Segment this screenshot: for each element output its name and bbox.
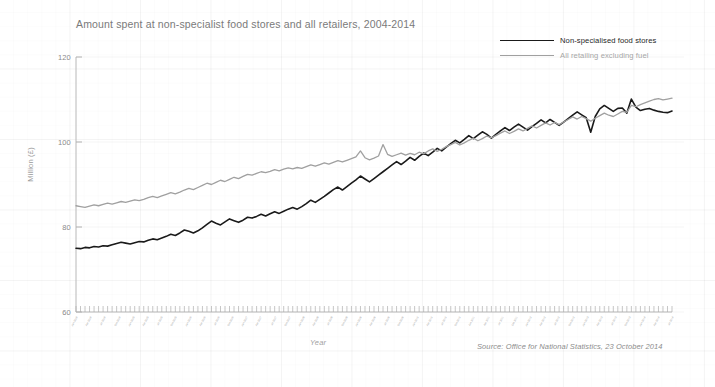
x-tick-label: Jan 2005	[128, 316, 136, 327]
chart-legend: Non-specialised food storesAll retailing…	[500, 33, 656, 63]
x-tick-label: Jan 2009	[355, 316, 363, 327]
x-tick-label: Jul 2011	[497, 316, 504, 326]
x-tick-label: Oct 2006	[227, 316, 235, 327]
x-tick-label: Jan 2011	[468, 316, 476, 327]
x-tick-label: Apr 2007	[256, 316, 264, 327]
x-tick-label: Oct 2013	[624, 316, 632, 327]
x-tick-label: Jan 2014	[639, 316, 647, 327]
x-tick-label: Jul 2010	[440, 316, 447, 326]
y-tick-label: 80	[49, 223, 71, 232]
x-tick-label: Jul 2012	[554, 316, 561, 326]
x-tick-label: Apr 2012	[539, 316, 547, 327]
x-tick-label: Oct 2008	[341, 316, 349, 327]
legend-item[interactable]: Non-specialised food stores	[500, 33, 656, 48]
y-axis-title: Million (£)	[26, 130, 35, 200]
x-axis-tick-labels: Jan 2004Apr 2004Jul 2004Oct 2004Jan 2005…	[76, 312, 672, 340]
x-tick-label: Apr 2011	[483, 316, 491, 327]
x-tick-label: Jan 2013	[582, 316, 590, 327]
x-tick-label: Oct 2004	[114, 316, 122, 327]
x-tick-label: Jan 2007	[241, 316, 249, 327]
x-tick-label: Jul 2007	[270, 316, 277, 326]
y-tick-label: 60	[49, 308, 71, 317]
x-tick-label: Oct 2012	[568, 316, 576, 327]
source-note: Source: Office for National Statistics, …	[477, 342, 663, 351]
chart-page: Amount spent at non-specialist food stor…	[0, 0, 715, 387]
y-tick-label: 120	[49, 53, 71, 62]
x-tick-label: Jul 2006	[213, 316, 220, 326]
x-tick-label: Apr 2013	[596, 316, 604, 327]
x-tick-label: Oct 2005	[170, 316, 178, 327]
legend-label: Non-specialised food stores	[560, 36, 656, 45]
x-tick-label: Jan 2012	[525, 316, 533, 327]
legend-item[interactable]: All retailing excluding fuel	[500, 48, 656, 63]
x-tick-label: Oct 2010	[454, 316, 462, 327]
x-tick-label: Apr 2004	[85, 316, 93, 327]
x-tick-label: Oct 2009	[397, 316, 405, 327]
x-tick-label: Apr 2010	[426, 316, 434, 327]
x-tick-label: Jul 2013	[611, 316, 618, 326]
legend-swatch-icon	[500, 40, 554, 41]
x-tick-label: Jan 2010	[412, 316, 420, 327]
y-axis-ticks	[76, 57, 82, 312]
x-tick-label: Apr 2014	[653, 316, 661, 327]
x-tick-label: Jul 2005	[157, 316, 164, 326]
x-tick-label: Oct 2011	[511, 316, 519, 327]
x-tick-label: Apr 2008	[312, 316, 320, 327]
x-tick-label: Apr 2009	[369, 316, 377, 327]
x-tick-label: Jul 2009	[384, 316, 391, 326]
x-tick-label: Oct 2007	[284, 316, 292, 327]
series-line-0	[76, 99, 672, 249]
x-tick-label: Jul 2004	[100, 316, 107, 326]
legend-swatch-icon	[500, 55, 554, 56]
series-lines	[76, 98, 672, 248]
x-tick-label: Jan 2006	[184, 316, 192, 327]
x-tick-label: Jan 2008	[298, 316, 306, 327]
x-tick-label: Jul 2008	[327, 316, 334, 326]
x-tick-label: Apr 2005	[142, 316, 150, 327]
plot-gridlines	[76, 57, 684, 312]
y-tick-label: 100	[49, 138, 71, 147]
x-tick-label: Apr 2006	[199, 316, 207, 327]
legend-label: All retailing excluding fuel	[560, 51, 649, 60]
